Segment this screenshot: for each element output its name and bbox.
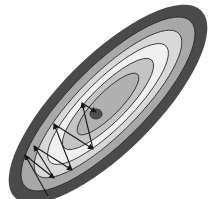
contour-ellipses	[0, 0, 210, 199]
contour-plot	[0, 0, 210, 199]
diagram-canvas	[0, 0, 210, 199]
minimum-dot	[90, 109, 102, 119]
minimum-point	[90, 109, 102, 119]
